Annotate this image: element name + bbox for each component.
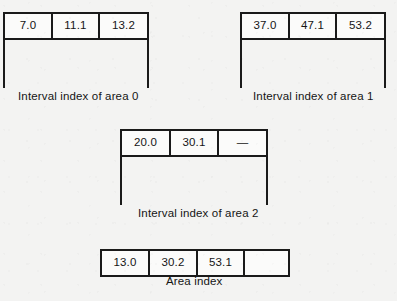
area-index-node: 13.0 30.2 53.1 [100, 249, 290, 277]
index-cell[interactable]: 30.1 [171, 131, 219, 155]
left-leg [240, 36, 242, 88]
empty-index-cell[interactable]: — [219, 131, 266, 155]
index-cell[interactable]: 7.0 [5, 14, 53, 38]
area-cell[interactable]: 13.0 [102, 251, 150, 275]
table-row: 13.0 30.2 53.1 [100, 249, 290, 277]
index-cell[interactable]: 20.0 [122, 131, 171, 155]
area-cell[interactable]: 53.1 [198, 251, 245, 275]
caption-interval-index-area-1: Interval index of area 1 [253, 90, 374, 103]
right-leg [147, 36, 149, 88]
interval-index-area-1-node: 37.0 47.1 53.2 [240, 12, 386, 40]
table-row: 20.0 30.1 — [120, 129, 268, 157]
caption-interval-index-area-2: Interval index of area 2 [138, 207, 259, 220]
area-cell-empty[interactable] [245, 251, 288, 275]
area-cell[interactable]: 30.2 [150, 251, 198, 275]
index-cell[interactable]: 11.1 [53, 14, 100, 38]
table-row: 7.0 11.1 13.2 [3, 12, 149, 40]
left-leg [120, 153, 122, 205]
right-leg [384, 36, 386, 88]
index-cell[interactable]: 37.0 [242, 14, 290, 38]
caption-interval-index-area-0: Interval index of area 0 [18, 90, 139, 103]
right-leg [266, 153, 268, 205]
left-leg [3, 36, 5, 88]
index-cell[interactable]: 47.1 [290, 14, 337, 38]
interval-index-area-2-node: 20.0 30.1 — [120, 129, 268, 157]
index-cell[interactable]: 13.2 [100, 14, 147, 38]
interval-index-area-0-node: 7.0 11.1 13.2 [3, 12, 149, 40]
table-row: 37.0 47.1 53.2 [240, 12, 386, 40]
index-structure-diagram: 7.0 11.1 13.2 Interval index of area 0 3… [0, 0, 397, 301]
index-cell[interactable]: 53.2 [337, 14, 384, 38]
caption-area-index: Area index [166, 275, 222, 288]
